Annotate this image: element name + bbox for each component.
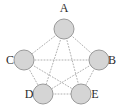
graph-node-a[interactable] (54, 19, 74, 39)
graph-canvas: ABCDE (0, 0, 120, 112)
graph-node-label-b: B (108, 53, 116, 67)
graph-node-c[interactable] (14, 50, 34, 70)
graph-node-d[interactable] (33, 84, 53, 104)
graph-figure: ABCDE (0, 0, 120, 112)
graph-node-label-e: E (91, 87, 98, 101)
graph-node-b[interactable] (89, 50, 109, 70)
graph-node-label-a: A (60, 1, 69, 15)
graph-node-e[interactable] (71, 84, 91, 104)
graph-node-label-d: D (25, 87, 34, 101)
graph-node-label-c: C (6, 53, 14, 67)
